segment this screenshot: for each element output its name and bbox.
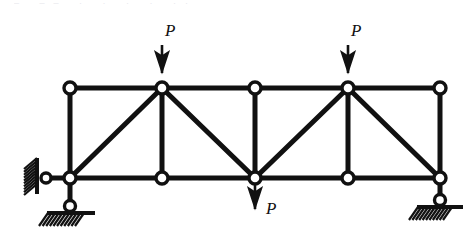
truss-diagram-svg: [0, 0, 469, 244]
top-node-load-left: [156, 82, 168, 94]
diagonal-2: [162, 88, 255, 178]
verticals-group: [70, 88, 440, 178]
bottom-node-2: [156, 172, 168, 184]
truss-figure: – –– · · · · ·· PPP: [0, 0, 469, 244]
truss-members-group: [70, 88, 440, 178]
top-left-node: [64, 82, 76, 94]
left-wall-pin: [41, 173, 51, 183]
bottom-right-support-node: [434, 172, 446, 184]
diagonal-3: [255, 88, 348, 178]
bottom-node-4: [342, 172, 354, 184]
bottom-left-roller-pin: [65, 201, 76, 212]
bottom-right-roller-pin: [435, 195, 446, 206]
bottom-mid-node-load: [249, 172, 261, 184]
load-arrow-top-left-label: P: [165, 22, 175, 39]
top-node-load-right: [342, 82, 354, 94]
load-arrow-top-right-label: P: [351, 22, 361, 39]
diagonal-1: [70, 88, 162, 178]
top-mid-node: [249, 82, 261, 94]
diagonal-4: [348, 88, 440, 178]
bottom-left-support-node: [64, 172, 76, 184]
load-arrow-bottom-mid-label: P: [266, 200, 276, 217]
top-right-node: [434, 82, 446, 94]
